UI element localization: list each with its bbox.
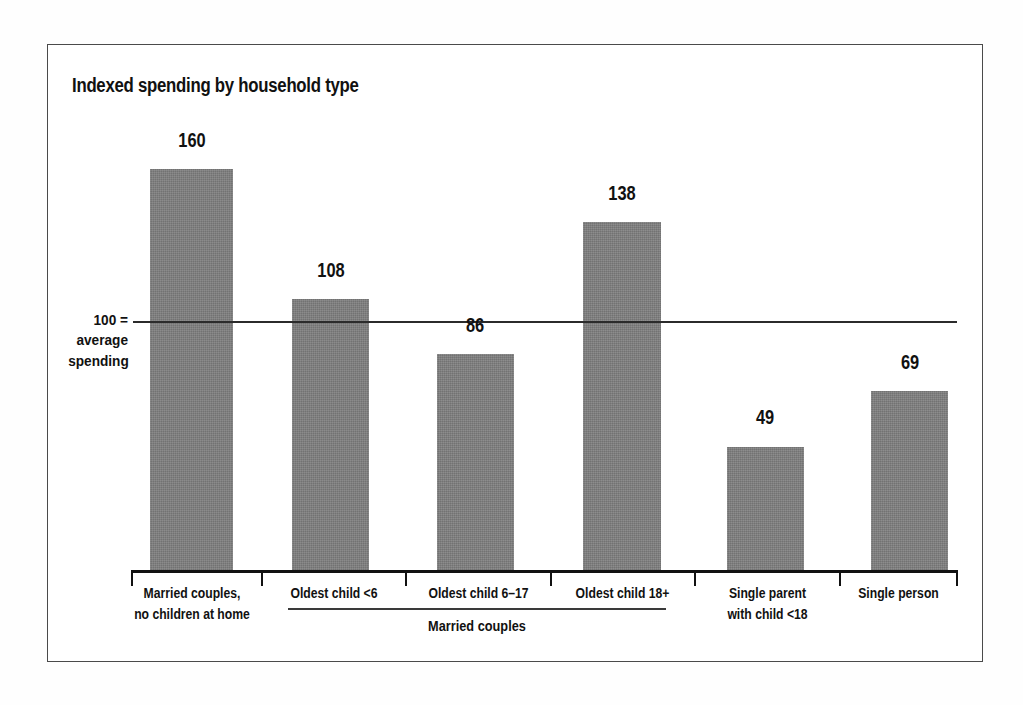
y-axis-reference-note: 100 = average spending — [68, 310, 128, 371]
bar-value-label: 49 — [732, 406, 798, 429]
bar-value-label: 86 — [442, 314, 508, 337]
x-axis-tick — [261, 573, 263, 586]
category-label-line-2: no children at home — [132, 604, 251, 625]
bar-value-label: 138 — [589, 182, 655, 205]
category-label-line-1: Single person — [849, 583, 947, 604]
bar-value-label: 160 — [158, 129, 225, 152]
page-canvas: Indexed spending by household type 100 =… — [0, 0, 1023, 705]
chart-plot-area: 100 = average spending 160 108 86 138 49… — [0, 0, 1023, 705]
bar-oldest-child-under-6 — [292, 299, 369, 571]
reference-line-100 — [133, 321, 957, 323]
bar-single-person — [871, 391, 948, 571]
x-axis-tick — [405, 573, 407, 586]
x-axis-tick — [694, 573, 696, 586]
category-label-line-1: Oldest child 18+ — [562, 583, 682, 604]
x-axis-category-label: Married couples, no children at home — [132, 583, 251, 624]
x-axis-category-label: Single parent with child <18 — [707, 583, 827, 624]
bar-oldest-child-6-17 — [437, 354, 514, 571]
category-label-line-1: Oldest child 6–17 — [418, 583, 538, 604]
category-label-line-1: Oldest child <6 — [274, 583, 393, 604]
y-axis-note-line-3: spending — [68, 351, 128, 371]
x-axis-category-label: Single person — [849, 583, 947, 604]
bar-value-label: 69 — [877, 351, 943, 374]
group-bracket-label: Married couples — [316, 617, 637, 634]
x-axis-tick — [839, 573, 841, 586]
bar-married-no-children — [150, 169, 233, 571]
x-axis-category-label: Oldest child 6–17 — [418, 583, 538, 604]
bar-oldest-child-18-plus — [583, 222, 661, 571]
category-label-line-2: with child <18 — [707, 604, 827, 625]
y-axis-note-line-1: 100 = — [68, 310, 128, 330]
bar-single-parent — [727, 447, 804, 571]
x-axis-line — [131, 570, 958, 573]
group-bracket-line — [288, 608, 666, 610]
category-label-line-1: Single parent — [707, 583, 827, 604]
category-label-line-1: Married couples, — [132, 583, 251, 604]
x-axis-category-label: Oldest child <6 — [274, 583, 393, 604]
x-axis-category-label: Oldest child 18+ — [562, 583, 682, 604]
bar-value-label: 108 — [298, 259, 364, 282]
x-axis-tick — [550, 573, 552, 586]
x-axis-tick — [956, 573, 958, 586]
y-axis-note-line-2: average — [68, 330, 128, 350]
